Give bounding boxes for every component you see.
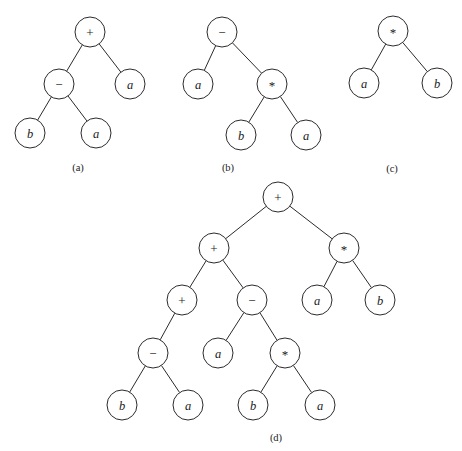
node-label: a	[195, 78, 201, 92]
tree-node[interactable]: a	[302, 285, 332, 315]
tree-node[interactable]: *	[329, 233, 359, 263]
tree-node[interactable]: +	[199, 233, 229, 263]
tree-edge	[324, 261, 337, 286]
node-label: *	[390, 25, 397, 40]
node-label: a	[317, 399, 323, 413]
tree-edge	[67, 45, 83, 71]
expression-tree-figure: +−aba(a)−a*ba(b)*ab(c)++*+−ab−a*baba(d)	[0, 0, 462, 451]
tree-node[interactable]: +	[263, 182, 293, 212]
node-label: +	[274, 190, 281, 205]
tree-node[interactable]: *	[378, 16, 408, 46]
node-label: −	[218, 25, 225, 40]
panel-caption: (b)	[222, 162, 235, 174]
node-label: *	[269, 78, 276, 93]
tree-node[interactable]: b	[238, 390, 268, 420]
node-label: a	[303, 129, 309, 143]
panel-caption: (a)	[72, 162, 84, 174]
tree-edge	[38, 97, 52, 120]
tree-node[interactable]: a	[115, 69, 145, 99]
tree-node[interactable]: +	[167, 285, 197, 315]
tree-edge	[223, 260, 243, 288]
node-label: −	[248, 293, 255, 308]
tree-edge	[353, 260, 372, 287]
panel-caption: (c)	[386, 163, 398, 175]
tree-node[interactable]: a	[173, 390, 203, 420]
tree-panel-a: +−aba(a)	[15, 17, 145, 174]
node-label: +	[210, 241, 217, 256]
node-label: a	[314, 294, 320, 308]
tree-panel-d: ++*+−ab−a*baba(d)	[107, 182, 395, 444]
tree-node[interactable]: −	[207, 17, 237, 47]
node-label: *	[341, 242, 348, 257]
tree-node[interactable]: b	[365, 285, 395, 315]
tree-node[interactable]: −	[44, 69, 74, 99]
node-label: a	[215, 347, 221, 361]
node-label: −	[149, 346, 156, 361]
tree-node[interactable]: −	[237, 285, 267, 315]
tree-edge	[130, 366, 146, 392]
node-label: −	[55, 77, 62, 92]
tree-edge	[68, 96, 87, 121]
node-label: a	[127, 78, 133, 92]
tree-edge	[99, 44, 121, 72]
tree-edge	[403, 42, 428, 71]
tree-edge	[204, 46, 215, 71]
tree-node[interactable]: b	[15, 118, 45, 148]
tree-edge	[293, 365, 311, 392]
tree-node[interactable]: a	[183, 69, 213, 99]
tree-node[interactable]: a	[305, 390, 335, 420]
tree-edges	[371, 42, 427, 71]
tree-node[interactable]: a	[349, 68, 379, 98]
tree-edge	[260, 313, 277, 341]
tree-edge	[249, 97, 264, 122]
node-label: +	[86, 25, 93, 40]
tree-panel-c: *ab(c)	[349, 16, 452, 175]
node-label: *	[282, 347, 289, 362]
tree-node[interactable]: a	[203, 338, 233, 368]
tree-panels-group: +−aba(a)−a*ba(b)*ab(c)++*+−ab−a*baba(d)	[15, 16, 452, 444]
tree-edge	[290, 206, 332, 239]
tree-panel-b: −a*ba(b)	[183, 17, 321, 174]
tree-node[interactable]: +	[75, 17, 105, 47]
node-label: b	[250, 399, 256, 413]
tree-edge	[232, 43, 261, 73]
node-label: b	[377, 294, 383, 308]
tree-node[interactable]: b	[226, 120, 256, 150]
node-label: b	[434, 77, 440, 91]
tree-edge	[226, 206, 267, 238]
tree-edge	[160, 313, 175, 340]
node-label: b	[238, 129, 244, 143]
tree-edge	[161, 365, 179, 392]
tree-node[interactable]: a	[291, 120, 321, 150]
tree-node[interactable]: a	[81, 118, 111, 148]
tree-edge	[280, 96, 297, 122]
node-label: a	[185, 399, 191, 413]
tree-node[interactable]: *	[270, 338, 300, 368]
tree-node[interactable]: b	[107, 390, 137, 420]
tree-edge	[261, 366, 277, 392]
node-label: a	[361, 77, 367, 91]
tree-edge	[226, 313, 244, 341]
tree-edge	[371, 44, 385, 70]
panel-caption: (d)	[270, 432, 283, 444]
node-label: b	[119, 399, 125, 413]
tree-edge	[190, 261, 206, 287]
node-label: a	[93, 127, 99, 141]
tree-node[interactable]: −	[138, 338, 168, 368]
tree-node[interactable]: b	[422, 68, 452, 98]
node-label: +	[178, 293, 185, 308]
node-label: b	[27, 127, 33, 141]
tree-node[interactable]: *	[257, 69, 287, 99]
